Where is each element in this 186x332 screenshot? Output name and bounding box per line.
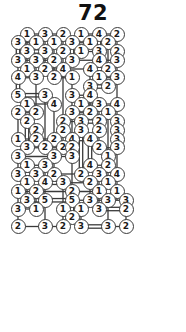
island[interactable]: 3 — [101, 219, 116, 234]
island[interactable]: 1 — [65, 70, 80, 85]
island[interactable]: 4 — [47, 97, 62, 112]
island[interactable]: 2 — [119, 202, 134, 217]
island[interactable]: 3 — [29, 70, 44, 85]
island[interactable]: 2 — [47, 70, 62, 85]
island[interactable]: 4 — [11, 70, 26, 85]
island[interactable]: 2 — [56, 219, 71, 234]
island[interactable]: 2 — [119, 219, 134, 234]
puzzle-page: 72 1321423113123321323323431244243211332… — [0, 0, 186, 332]
island[interactable]: 3 — [65, 149, 80, 164]
island[interactable]: 3 — [92, 202, 107, 217]
page-title: 72 — [0, 1, 186, 25]
island[interactable]: 1 — [29, 202, 44, 217]
island[interactable]: 3 — [38, 219, 53, 234]
island[interactable]: 2 — [101, 79, 116, 94]
hashi-board[interactable]: 1321423113123321323323431244243211332533… — [0, 26, 186, 332]
island[interactable]: 3 — [11, 202, 26, 217]
island[interactable]: 3 — [74, 219, 89, 234]
island-layer: 1321423113123321323323431244243211332533… — [0, 26, 186, 332]
island[interactable]: 2 — [11, 219, 26, 234]
